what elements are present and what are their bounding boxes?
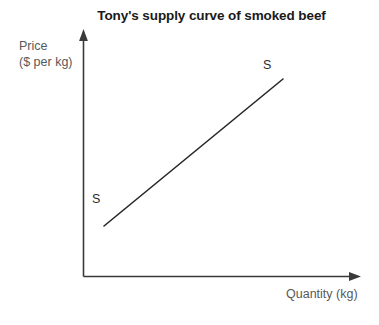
supply-curve-label-lower: S — [92, 192, 100, 206]
y-axis-arrowhead — [79, 29, 88, 41]
x-axis-arrowhead — [349, 272, 361, 281]
plot-area — [0, 0, 379, 325]
x-axis-label: Quantity (kg) — [286, 287, 358, 301]
supply-curve-label-upper: S — [263, 58, 271, 72]
chart-canvas: Tony's supply curve of smoked beef Price… — [0, 0, 379, 325]
supply-curve-line — [104, 79, 283, 226]
